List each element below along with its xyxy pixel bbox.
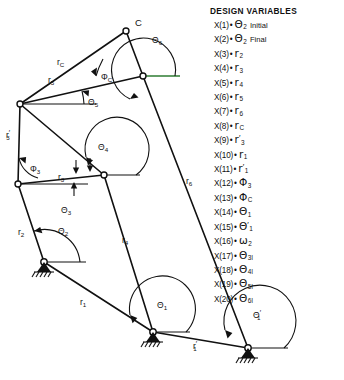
label-link-r2: r2 xyxy=(18,227,25,238)
legend-variable-key: X(17) xyxy=(214,252,233,261)
pin-joint-B xyxy=(15,181,21,187)
legend-row-x18: X(18)•Θ4I xyxy=(208,264,342,276)
legend-variable-subscript: 5 xyxy=(239,95,243,102)
legend-variable-subscript: 2 xyxy=(239,52,243,59)
arrowhead-theta3-b xyxy=(73,168,79,175)
legend-variable-subscript: 1 xyxy=(244,167,248,174)
legend-variable-key: X(16) xyxy=(214,237,233,246)
ground-hatch-O4 xyxy=(141,342,160,347)
legend-variable-subscript: 1 xyxy=(243,153,247,160)
arc-theta5 xyxy=(82,91,84,104)
legend-variable-key: X(12) xyxy=(214,179,233,188)
legend-variable-subscript: C xyxy=(239,124,244,131)
legend-variable-key: X(7) xyxy=(214,107,229,116)
ground-triangle-O6 xyxy=(241,348,255,358)
legend-variable-symbol: Θ xyxy=(235,32,243,44)
pin-joint-A xyxy=(17,101,23,107)
legend-variable-subscript: 3 xyxy=(240,139,244,146)
legend-row-x5: X(5)•r4 xyxy=(208,77,342,89)
legend-variable-key: X(8) xyxy=(214,122,229,131)
legend-row-x7: X(7)•r6 xyxy=(208,105,342,117)
legend-row-x6: X(6)•r5 xyxy=(208,91,342,103)
legend-variable-subscript: 3I xyxy=(247,254,253,261)
legend-row-x16: X(16)•ω2 xyxy=(208,235,342,247)
link-r4 xyxy=(104,175,153,332)
link-rC xyxy=(20,31,126,104)
legend-row-x3: X(3)•r2 xyxy=(208,48,342,60)
legend-variable-symbol: Θ xyxy=(239,263,247,275)
arrowhead-theta6 xyxy=(130,93,139,99)
legend-row-x13: X(13)•ΦC xyxy=(208,192,342,204)
legend-variable-key: X(19) xyxy=(214,280,233,289)
label-link-r1: r1 xyxy=(80,297,87,308)
legend-variable-key: X(1) xyxy=(214,21,229,30)
legend-variable-subscript: 5I xyxy=(247,283,253,290)
legend-row-x19: X(19)•Θ5I xyxy=(208,278,342,290)
legend-row-x11: X(11)•r′1 xyxy=(208,163,342,175)
link-r3prime xyxy=(18,104,20,184)
legend-variable-key: X(9) xyxy=(214,136,229,145)
arc-theta6 xyxy=(112,38,176,99)
link-r2 xyxy=(18,184,44,262)
legend-variable-subscript: C xyxy=(247,196,252,203)
legend-variable-symbol: Φ xyxy=(239,191,247,203)
label-vertex-C: C xyxy=(135,17,142,28)
legend-variable-subscript: 1 xyxy=(249,225,253,232)
legend-variable-key: X(5) xyxy=(214,79,229,88)
legend-variable-subscript: 4I xyxy=(247,268,253,275)
legend-variable-suffix: Initial xyxy=(247,21,268,30)
legend-variable-key: X(2) xyxy=(214,35,229,44)
legend-variable-key: X(20) xyxy=(214,295,233,304)
legend-variable-symbol: Θ xyxy=(239,277,247,289)
legend-row-x20: X(20)•Θ6I xyxy=(208,293,342,305)
pin-joint-E xyxy=(140,73,146,79)
arrowhead-theta3-c xyxy=(87,166,93,173)
label-angle-theta6: Θ6 xyxy=(152,35,163,46)
arrowhead-phiC xyxy=(91,68,97,77)
legend-variable-subscript: 2 xyxy=(248,240,252,247)
label-angle-theta3: Θ3 xyxy=(61,205,72,216)
label-link-rC: rC xyxy=(57,57,65,68)
label-link-r5: r5 xyxy=(48,75,55,86)
legend-variable-symbol: Θ xyxy=(239,249,247,261)
legend-variable-subscript: 6I xyxy=(247,297,253,304)
legend-row-x15: X(15)•Θ′1 xyxy=(208,221,342,233)
label-angle-phi3: Φ3 xyxy=(30,164,41,175)
legend-variable-subscript: 6 xyxy=(239,110,243,117)
legend-variable-subscript: 3 xyxy=(247,182,251,189)
label-link-r6: r6 xyxy=(186,176,193,187)
legend-variable-symbol: Θ xyxy=(239,220,247,232)
legend-variable-key: X(14) xyxy=(214,208,233,217)
legend-row-x10: X(10)•r1 xyxy=(208,149,342,161)
label-link-r3: r3 xyxy=(58,172,65,183)
label-angle-theta5: Θ5 xyxy=(88,97,99,108)
label-link-r1-prime: r′1 xyxy=(193,340,198,352)
legend-row-x1: X(1)•Θ2Initial xyxy=(208,19,342,31)
pin-joint-C xyxy=(123,28,129,34)
label-angle-theta2: Θ2 xyxy=(58,226,69,237)
figure-root: rC r5 r′3 r3 r2 r4 r6 r1 xyxy=(0,0,344,380)
legend-row-x8: X(8)•rC xyxy=(208,120,342,132)
legend-variable-key: X(4) xyxy=(214,64,229,73)
ground-triangle-O1 xyxy=(37,262,51,272)
legend-variable-symbol: Θ xyxy=(239,292,247,304)
legend-row-x17: X(17)•Θ3I xyxy=(208,250,342,262)
legend-row-x2: X(2)•Θ2Final xyxy=(208,33,342,45)
legend-row-x14: X(14)•Θ1 xyxy=(208,206,342,218)
arc-theta2 xyxy=(34,230,80,262)
link-r5 xyxy=(20,76,143,104)
legend-variable-subscript: 3 xyxy=(239,67,243,74)
legend-variable-key: X(3) xyxy=(214,50,229,59)
legend-variable-subscript: 4 xyxy=(239,81,243,88)
legend-heading: DESIGN VARIABLES xyxy=(210,6,342,16)
legend-variable-key: X(13) xyxy=(214,194,233,203)
arrowhead-theta1-prime xyxy=(225,330,232,338)
link-r1prime xyxy=(153,332,248,348)
legend-row-list: X(1)•Θ2InitialX(2)•Θ2FinalX(3)•r2X(4)•r3… xyxy=(208,19,342,305)
legend-variable-symbol: Θ xyxy=(235,18,243,30)
label-link-r3-prime: r′3 xyxy=(6,129,11,141)
legend-variable-suffix: Final xyxy=(247,35,266,44)
link-r1 xyxy=(44,262,153,332)
label-link-r4: r4 xyxy=(122,235,129,246)
label-angle-phiC: ΦC xyxy=(101,72,113,83)
